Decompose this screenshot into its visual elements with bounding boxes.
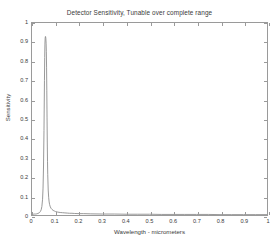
y-tick-mark-right bbox=[264, 139, 267, 140]
y-tick-label: 0.3 bbox=[20, 155, 28, 161]
x-tick-mark-top bbox=[198, 23, 199, 26]
x-tick-mark bbox=[174, 212, 175, 215]
x-tick-mark bbox=[269, 212, 270, 215]
chart-title: Detector Sensitivity, Tunable over compl… bbox=[0, 9, 279, 16]
y-tick-label: 1 bbox=[25, 19, 28, 25]
y-tick-mark-right bbox=[264, 42, 267, 43]
y-tick-mark-right bbox=[264, 159, 267, 160]
y-tick-mark bbox=[32, 178, 35, 179]
y-tick-mark bbox=[32, 62, 35, 63]
y-tick-mark bbox=[32, 23, 35, 24]
sensitivity-curve bbox=[32, 23, 267, 215]
x-tick-mark-top bbox=[269, 23, 270, 26]
y-tick-label: 0.6 bbox=[20, 97, 28, 103]
y-tick-mark-right bbox=[264, 81, 267, 82]
y-tick-mark bbox=[32, 120, 35, 121]
x-tick-label: 0.9 bbox=[240, 218, 248, 224]
x-tick-mark bbox=[151, 212, 152, 215]
x-tick-label: 0.3 bbox=[98, 218, 106, 224]
x-tick-mark bbox=[103, 212, 104, 215]
y-tick-label: 0.2 bbox=[20, 174, 28, 180]
x-tick-label: 0.7 bbox=[193, 218, 201, 224]
x-tick-mark bbox=[56, 212, 57, 215]
x-tick-mark bbox=[222, 212, 223, 215]
y-tick-mark bbox=[32, 42, 35, 43]
y-tick-mark bbox=[32, 198, 35, 199]
x-tick-mark bbox=[79, 212, 80, 215]
y-tick-label: 0.1 bbox=[20, 194, 28, 200]
y-axis-label: Sensitivity bbox=[4, 78, 11, 138]
x-tick-label: 0 bbox=[29, 218, 32, 224]
y-tick-mark-right bbox=[264, 120, 267, 121]
y-tick-label: 0.5 bbox=[20, 116, 28, 122]
x-tick-label: 0.1 bbox=[51, 218, 59, 224]
y-tick-label: 0 bbox=[25, 213, 28, 219]
plot-area bbox=[31, 22, 268, 216]
x-axis-label: Wavelength - micrometers bbox=[31, 228, 268, 235]
y-tick-mark-right bbox=[264, 101, 267, 102]
x-tick-mark bbox=[32, 212, 33, 215]
x-tick-label: 0.4 bbox=[122, 218, 130, 224]
x-tick-mark-top bbox=[151, 23, 152, 26]
y-tick-label: 0.8 bbox=[20, 58, 28, 64]
x-tick-mark-top bbox=[79, 23, 80, 26]
x-tick-label: 0.8 bbox=[217, 218, 225, 224]
x-tick-mark bbox=[198, 212, 199, 215]
x-tick-mark-top bbox=[174, 23, 175, 26]
y-tick-mark bbox=[32, 139, 35, 140]
chart-figure: Detector Sensitivity, Tunable over compl… bbox=[0, 0, 279, 244]
x-tick-label: 0.2 bbox=[75, 218, 83, 224]
y-tick-mark-right bbox=[264, 178, 267, 179]
y-tick-label: 0.7 bbox=[20, 77, 28, 83]
y-tick-mark bbox=[32, 81, 35, 82]
x-tick-mark-top bbox=[103, 23, 104, 26]
x-tick-mark-top bbox=[222, 23, 223, 26]
y-tick-mark bbox=[32, 159, 35, 160]
y-tick-mark-right bbox=[264, 23, 267, 24]
x-tick-mark bbox=[127, 212, 128, 215]
y-tick-label: 0.4 bbox=[20, 135, 28, 141]
x-tick-label: 1 bbox=[266, 218, 269, 224]
x-tick-label: 0.5 bbox=[146, 218, 154, 224]
x-tick-mark-top bbox=[127, 23, 128, 26]
x-tick-mark-top bbox=[56, 23, 57, 26]
y-tick-mark-right bbox=[264, 62, 267, 63]
y-tick-mark bbox=[32, 101, 35, 102]
y-tick-label: 0.9 bbox=[20, 38, 28, 44]
y-tick-mark-right bbox=[264, 198, 267, 199]
x-tick-label: 0.6 bbox=[169, 218, 177, 224]
x-tick-mark bbox=[245, 212, 246, 215]
x-tick-mark-top bbox=[245, 23, 246, 26]
